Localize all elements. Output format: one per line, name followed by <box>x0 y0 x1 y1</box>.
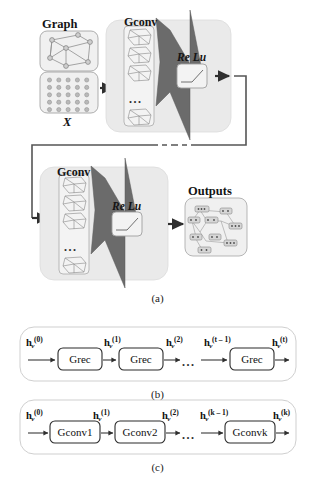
graph-cube-icon <box>40 31 98 71</box>
feature-matrix-icon <box>40 72 98 113</box>
panel-b-node-1-label: Grec <box>119 354 163 365</box>
figure-canvas: Graph X Gconv Re Lu Gconv Re Lu Outputs … <box>0 0 315 498</box>
math-sup: (t – 1) <box>212 335 231 344</box>
panel-b-edge-label-3: hv(t – 1) <box>204 336 231 350</box>
math-sup: (k) <box>281 408 290 417</box>
relu-label-2: Re Lu <box>112 201 141 213</box>
panel-b-edge-label-1: hv(1) <box>104 336 121 350</box>
gconv-stack-ellipsis-1: ... <box>129 92 143 107</box>
panel-c-edge-label-0: hv(0) <box>26 409 43 423</box>
panel-b-caption: (b) <box>0 388 315 400</box>
panel-b-node-0-label: Grec <box>58 354 102 365</box>
panel-c-edge-label-1: hv(1) <box>93 409 110 423</box>
math-sup: (1) <box>101 408 110 417</box>
math-sup: (0) <box>34 335 43 344</box>
math-sup: (t) <box>280 335 288 344</box>
panel-c-node-2-label: Gconvk <box>225 427 275 438</box>
gconv-block-2-title: Gconv <box>57 166 90 178</box>
panel-c-node-1-label: Gconv2 <box>115 427 165 438</box>
panel-c-caption: (c) <box>0 461 315 473</box>
aggregation-funnel-icon <box>156 10 203 140</box>
panel-b-ellipsis: ... <box>182 355 196 370</box>
graph-stack-icon <box>128 29 151 125</box>
panel-c-edge-label-2: hv(2) <box>162 409 179 423</box>
panel-b-edge-label-4: hv(t) <box>272 336 287 350</box>
relu-label-1: Re Lu <box>177 52 206 64</box>
panel-c-node-0-label: Gconv1 <box>50 427 100 438</box>
gconv-block-1 <box>106 10 231 140</box>
math-sup: (k – 1) <box>208 408 228 417</box>
relu-curve-icon <box>112 212 142 236</box>
graph-input-label: Graph <box>42 18 77 31</box>
panel-a-caption: (a) <box>0 292 315 304</box>
panel-b-edge-label-0: hv(0) <box>26 336 43 350</box>
gconv-block-1-title: Gconv <box>124 16 157 28</box>
figure-graphics-layer <box>0 0 315 498</box>
graph-stack-icon <box>63 177 86 273</box>
outputs-label: Outputs <box>188 185 232 198</box>
panel-b-node-2-label: Grec <box>230 354 274 365</box>
panel-c-ellipsis: ... <box>182 428 196 443</box>
panel-b-edge-label-2: hv(2) <box>166 336 183 350</box>
output-graph-icon <box>185 198 247 256</box>
math-sup: (0) <box>34 408 43 417</box>
panel-c-edge-label-3: hv(k – 1) <box>200 409 228 423</box>
relu-curve-icon <box>177 64 207 88</box>
gconv-stack-ellipsis-2: ... <box>64 240 78 255</box>
feature-matrix-label: X <box>63 116 71 129</box>
panel-c-edge-label-4: hv(k) <box>273 409 290 423</box>
math-sup: (2) <box>170 408 179 417</box>
math-sup: (1) <box>112 335 121 344</box>
math-sup: (2) <box>174 335 183 344</box>
aggregation-funnel-icon <box>91 158 138 288</box>
